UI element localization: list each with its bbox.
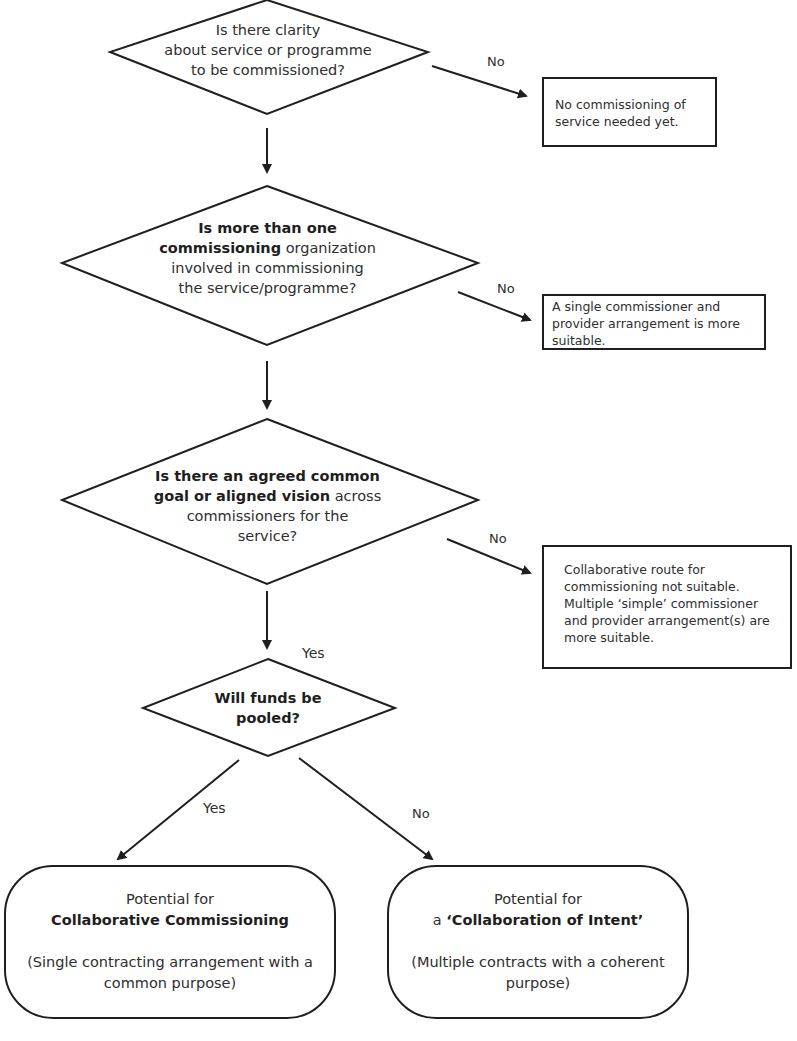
decision-line: Is more than one xyxy=(105,218,430,238)
edge-label-d1-no: No xyxy=(487,54,505,69)
decision-line: involved in commissioning xyxy=(105,258,430,278)
outcome-line: Collaborative route for xyxy=(564,561,789,578)
edge-label-d3-no: No xyxy=(489,531,507,546)
decision-line: pooled? xyxy=(180,708,356,728)
terminal-detail: common purpose) xyxy=(10,973,330,994)
outcome-line: Multiple ‘simple’ commissioner xyxy=(564,595,789,612)
decision-line: Is there clarity xyxy=(130,20,406,40)
decision-text-pooled-funds: Will funds be pooled? xyxy=(180,688,356,728)
terminal-detail: (Multiple contracts with a coherent xyxy=(392,952,684,973)
outcome-line: more suitable. xyxy=(564,629,789,646)
decision-line: Is there an agreed common xyxy=(105,466,430,486)
outcome-line: and provider arrangement(s) are xyxy=(564,612,789,629)
edge-label-d4-yes: Yes xyxy=(203,800,226,816)
terminal-title: a ‘Collaboration of Intent’ xyxy=(392,910,684,931)
decision-line: goal or aligned vision across xyxy=(105,486,430,506)
outcome-line: suitable. xyxy=(552,332,767,349)
edge-label-d2-no: No xyxy=(497,281,515,296)
terminal-text-collaborative-commissioning: Potential for Collaborative Commissionin… xyxy=(10,889,330,994)
arrow-d2-no xyxy=(458,292,530,320)
terminal-intro: Potential for xyxy=(10,889,330,910)
decision-text-common-goal: Is there an agreed common goal or aligne… xyxy=(105,466,430,546)
decision-line: to be commissioned? xyxy=(130,60,406,80)
terminal-detail: purpose) xyxy=(392,973,684,994)
decision-text-multiple-commissioners: Is more than one commissioning organizat… xyxy=(105,218,430,298)
decision-line: the service/programme? xyxy=(105,278,430,298)
edge-label-d4-no: No xyxy=(412,806,430,821)
terminal-spacer xyxy=(392,931,684,952)
decision-line: commissioners for the xyxy=(105,506,430,526)
outcome-line: service needed yet. xyxy=(555,113,715,130)
terminal-intro: Potential for xyxy=(392,889,684,910)
terminal-detail: (Single contracting arrangement with a xyxy=(10,952,330,973)
edge-label-d3-yes: Yes xyxy=(302,645,325,661)
decision-line: commissioning organization xyxy=(105,238,430,258)
decision-text-clarity: Is there clarity about service or progra… xyxy=(130,20,406,80)
terminal-title: Collaborative Commissioning xyxy=(10,910,330,931)
outcome-line: commissioning not suitable. xyxy=(564,578,789,595)
decision-line: about service or programme xyxy=(130,40,406,60)
outcome-line: provider arrangement is more xyxy=(552,315,767,332)
terminal-spacer xyxy=(10,931,330,952)
outcome-text-collaborative-not-suitable: Collaborative route for commissioning no… xyxy=(564,561,789,646)
outcome-line: A single commissioner and xyxy=(552,298,767,315)
decision-line: Will funds be xyxy=(180,688,356,708)
outcome-text-no-commissioning: No commissioning of service needed yet. xyxy=(555,96,715,130)
terminal-text-collaboration-of-intent: Potential for a ‘Collaboration of Intent… xyxy=(392,889,684,994)
outcome-line: No commissioning of xyxy=(555,96,715,113)
arrow-d1-no xyxy=(432,66,526,96)
decision-line: service? xyxy=(105,526,430,546)
outcome-text-single-commissioner: A single commissioner and provider arran… xyxy=(552,298,767,349)
